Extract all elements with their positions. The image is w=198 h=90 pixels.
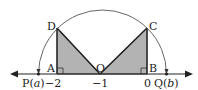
label-P: P(a) [22, 77, 45, 90]
arrow-right-icon [185, 71, 193, 78]
label-Q: Q(b) [154, 77, 179, 90]
arrow-left-icon [10, 71, 18, 78]
label-C: C [149, 20, 157, 33]
number-line-diagram: D C A B O P(a) −2 −1 0 Q(b) [0, 0, 198, 90]
tick-label-minus2: −2 [45, 77, 61, 90]
tick-label-zero: 0 [144, 77, 151, 90]
label-B: B [149, 62, 157, 75]
point-Q [165, 72, 168, 75]
label-D: D [47, 20, 56, 33]
tick-label-minus1: −1 [92, 77, 108, 90]
point-P [37, 72, 40, 75]
label-O: O [96, 62, 105, 75]
label-A: A [46, 62, 56, 75]
